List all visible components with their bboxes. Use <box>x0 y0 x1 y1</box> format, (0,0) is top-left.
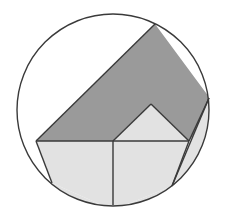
geometry-diagram <box>0 0 227 217</box>
diagram-canvas <box>0 0 227 217</box>
